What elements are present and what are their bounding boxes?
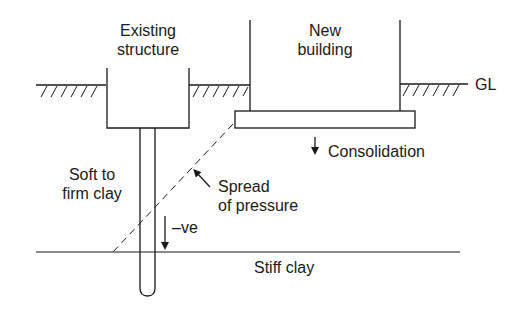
stiff-clay-label: Stiff clay xyxy=(254,258,314,277)
existing-structure xyxy=(107,68,189,128)
pile xyxy=(140,128,155,296)
soft-clay-label: Soft to firm clay xyxy=(48,165,136,203)
new-building-footing xyxy=(235,111,415,128)
negative-friction-label: –ve xyxy=(172,218,198,237)
ground-level-label: GL xyxy=(475,75,496,94)
spread-of-pressure-label-line2: of pressure xyxy=(218,196,298,215)
soft-clay-label-line2: firm clay xyxy=(48,184,136,203)
spread-pointer-arrow-icon xyxy=(196,172,210,187)
new-building-label-line2: building xyxy=(280,40,370,59)
new-building-label: New building xyxy=(280,21,370,59)
consolidation-label: Consolidation xyxy=(328,142,425,161)
soft-clay-label-line1: Soft to xyxy=(48,165,136,184)
ground-level-middle xyxy=(189,85,250,97)
ground-level-left xyxy=(36,85,106,97)
spread-of-pressure-label-line1: Spread xyxy=(218,177,298,196)
new-building-label-line1: New xyxy=(280,21,370,40)
existing-structure-label: Existing structure xyxy=(103,21,193,59)
spread-of-pressure-label: Spread of pressure xyxy=(218,177,298,215)
ground-level-right xyxy=(400,84,468,96)
existing-structure-label-line1: Existing xyxy=(103,21,193,40)
existing-structure-label-line2: structure xyxy=(103,40,193,59)
